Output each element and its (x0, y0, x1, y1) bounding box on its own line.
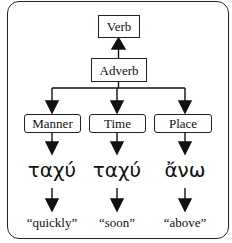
greek-word-manner: ταχύ (17, 160, 87, 180)
gloss-manner: “quickly” (17, 216, 87, 229)
manner-node: Manner (24, 114, 81, 133)
place-node: Place (154, 114, 212, 133)
time-node: Time (89, 114, 146, 133)
gloss-time: “soon” (82, 216, 152, 229)
adverb-node: Adverb (91, 58, 147, 82)
gloss-place: “above” (150, 216, 220, 229)
verb-node: Verb (98, 15, 140, 38)
greek-word-place: ἄνω (150, 160, 220, 180)
greek-word-time: ταχύ (82, 160, 152, 180)
